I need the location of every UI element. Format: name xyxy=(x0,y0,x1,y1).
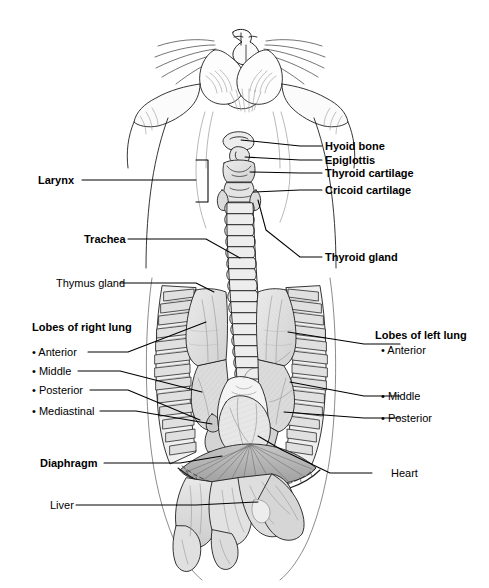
heading-lobes-of-right-lung: Lobes of right lung xyxy=(32,321,132,333)
label-right-lobe-mediastinal: • Mediastinal xyxy=(32,405,95,417)
leader-epiglottis xyxy=(245,157,322,160)
leader-cricoid-cartilage xyxy=(253,190,322,192)
heading-lobes-of-left-lung: Lobes of left lung xyxy=(375,329,467,341)
label-epiglottis: Epiglottis xyxy=(325,154,375,166)
leader-thyroid-gland xyxy=(258,200,322,257)
label-hyoid-bone: Hyoid bone xyxy=(325,140,385,152)
label-right-lobe-posterior: • Posterior xyxy=(32,384,83,396)
label-trachea: Trachea xyxy=(84,233,126,245)
leader-trachea xyxy=(128,239,240,258)
label-left-lobe-middle: • Middle xyxy=(381,390,420,402)
label-thyroid-cartilage: Thyroid cartilage xyxy=(325,167,414,179)
leader-thyroid-cartilage xyxy=(250,172,322,173)
label-thyroid-gland: Thyroid gland xyxy=(325,251,398,263)
label-thymus-gland: Thymus gland xyxy=(56,277,125,289)
label-diaphragm: Diaphragm xyxy=(40,457,97,469)
label-right-lobe-middle: • Middle xyxy=(32,365,71,377)
liver-group xyxy=(173,474,304,571)
label-cricoid-cartilage: Cricoid cartilage xyxy=(325,184,411,196)
diagram-canvas: Hyoid bone Epiglottis Thyroid cartilage … xyxy=(0,0,489,588)
label-left-lobe-anterior: • Anterior xyxy=(381,344,426,356)
label-liver: Liver xyxy=(50,499,74,511)
label-larynx: Larynx xyxy=(38,174,74,186)
label-heart: Heart xyxy=(391,467,418,479)
label-right-lobe-anterior: • Anterior xyxy=(32,346,77,358)
label-left-lobe-posterior: • Posterior xyxy=(381,412,432,424)
